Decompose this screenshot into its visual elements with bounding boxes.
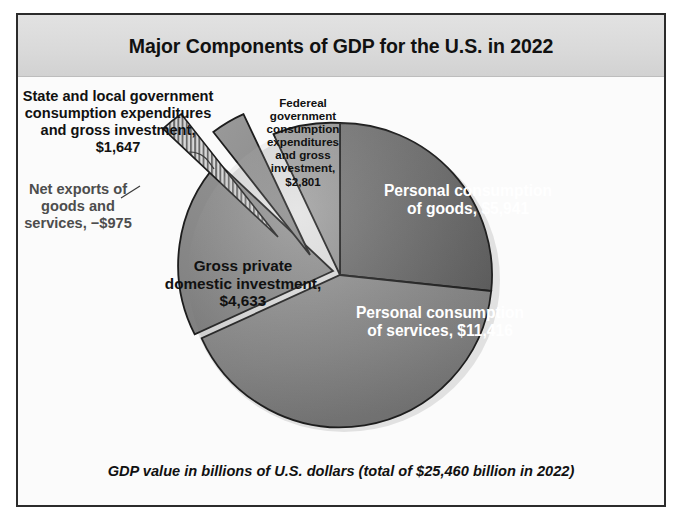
- slice-label-personal-consumption-services: Personal consumption of services, $11,41…: [352, 304, 528, 340]
- figure-canvas: Major Components of GDP for the U.S. in …: [0, 0, 680, 521]
- pie-chart-svg: [0, 0, 680, 521]
- slice-label-gross-private-domestic-investment: Gross private domestic investment, $4,63…: [160, 257, 326, 310]
- figure-footnote: GDP value in billions of U.S. dollars (t…: [18, 463, 664, 479]
- slice-label-state-and-local-government: State and local government consumption e…: [20, 88, 216, 156]
- pie-chart: [0, 0, 680, 521]
- slice-label-personal-consumption-goods: Personal consumption of goods, $5,941: [378, 182, 558, 218]
- slice-label-net-exports: Net exports of goods and services, −$975: [8, 181, 148, 232]
- slice-label-federal-government: Federeal government consumption expendit…: [266, 96, 340, 188]
